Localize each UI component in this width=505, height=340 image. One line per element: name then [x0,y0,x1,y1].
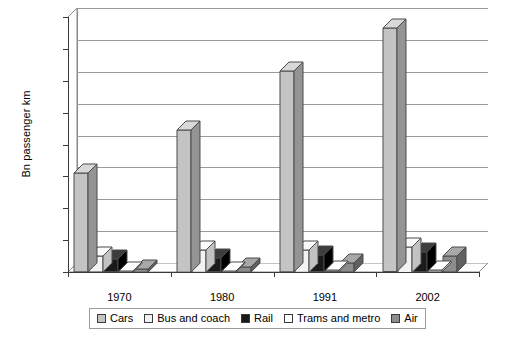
chart-legend: CarsBus and coachRailTrams and metroAir [89,308,426,329]
bar-cars-1980 [177,121,202,274]
y-axis-tick-mark [63,81,68,82]
bar-chart: Bn passenger km 05001,0001,5002,0002,500… [0,0,505,340]
legend-item-cars[interactable]: Cars [97,313,133,324]
legend-label: Air [404,313,417,324]
legend-swatch-icon [241,314,250,323]
y-axis-tick-mark [63,176,68,177]
bar-cars-1970 [74,164,99,274]
y-axis-tick-mark [63,208,68,209]
legend-label: Rail [254,313,273,324]
y-axis-line [68,17,69,272]
x-axis-tick-label: 1980 [177,291,267,303]
x-axis-tick-mark [479,272,480,277]
legend-item-trams-and-metro[interactable]: Trams and metro [284,313,380,324]
legend-swatch-icon [97,314,106,323]
x-axis-tick-label: 1970 [74,291,164,303]
y-axis-tick-mark [63,240,68,241]
y-axis-tick-mark [63,113,68,114]
x-axis-tick-mark [68,272,69,277]
legend-item-rail[interactable]: Rail [241,313,273,324]
legend-item-bus-and-coach[interactable]: Bus and coach [144,313,230,324]
x-axis-tick-mark [171,272,172,277]
legend-swatch-icon [391,314,400,323]
x-axis-tick-mark [274,272,275,277]
legend-item-air[interactable]: Air [391,313,417,324]
x-axis-tick-label: 1991 [280,291,370,303]
y-axis-title: Bn passenger km [20,64,32,204]
gridline [77,8,488,9]
legend-swatch-icon [144,314,153,323]
plot-area: 05001,0001,5002,0002,5003,0003,5004,000 … [68,8,488,282]
y-axis-tick-mark [63,17,68,18]
bar-cars-2002 [383,19,408,274]
gridline [77,40,488,41]
legend-label: Trams and metro [297,313,380,324]
x-axis-tick-label: 2002 [383,291,473,303]
legend-label: Bus and coach [157,313,230,324]
y-axis-tick-mark [63,145,68,146]
bar-cars-1991 [280,62,305,274]
x-axis-tick-mark [376,272,377,277]
y-axis-tick-mark [63,49,68,50]
legend-swatch-icon [284,314,293,323]
legend-label: Cars [110,313,133,324]
